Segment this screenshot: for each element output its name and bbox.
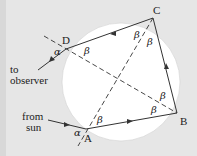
angle-beta-c1: β xyxy=(133,29,140,40)
angle-beta-d: β xyxy=(83,45,90,56)
left-edge-shade xyxy=(0,0,6,156)
from-sun-label-2: sun xyxy=(26,121,42,133)
point-a-label: A xyxy=(84,132,92,144)
point-d-label: D xyxy=(62,34,70,46)
raindrop-diagram: C D B A to observer from sun α α β β β β… xyxy=(0,0,197,156)
angle-alpha-d: α xyxy=(54,46,61,57)
to-observer-label-2: observer xyxy=(10,74,48,86)
point-c-label: C xyxy=(153,4,160,16)
point-b-label: B xyxy=(180,115,187,127)
angle-beta-a: β xyxy=(96,114,103,125)
angle-beta-c2: β xyxy=(146,36,153,47)
angle-alpha-a: α xyxy=(74,127,81,138)
angle-beta-b2: β xyxy=(150,104,157,115)
angle-beta-b1: β xyxy=(159,90,166,101)
